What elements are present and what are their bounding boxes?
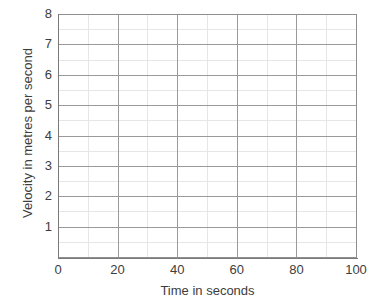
- y-tick-label: 3: [36, 159, 52, 173]
- gridline-h-major: [58, 227, 357, 228]
- gridline-h-minor: [58, 60, 357, 61]
- gridline-h-major: [58, 166, 357, 167]
- gridline-h-major: [58, 136, 357, 137]
- gridlines: [58, 14, 357, 258]
- x-tick-label: 100: [345, 262, 367, 278]
- x-tick-label: 20: [110, 262, 124, 278]
- gridline-h-major: [58, 196, 357, 197]
- y-tick-label: 6: [36, 68, 52, 82]
- y-tick-label: 8: [36, 7, 52, 21]
- x-axis-spine: [58, 258, 358, 259]
- gridline-h-major: [58, 14, 357, 15]
- gridline-h-minor: [58, 211, 357, 212]
- plot-area: [58, 14, 357, 258]
- y-tick-label: 7: [36, 37, 52, 51]
- gridline-h-minor: [58, 120, 357, 121]
- gridline-h-major: [58, 105, 357, 106]
- gridline-h-major: [58, 75, 357, 76]
- x-tick-label: 40: [170, 262, 184, 278]
- gridline-h-minor: [58, 90, 357, 91]
- gridline-h-minor: [58, 29, 357, 30]
- gridline-h-minor: [58, 242, 357, 243]
- velocity-time-chart: 020406080100 12345678 Time in seconds Ve…: [0, 0, 383, 305]
- y-tick-label: 1: [36, 220, 52, 234]
- x-tick-label: 80: [289, 262, 303, 278]
- x-tick-label: 0: [54, 262, 61, 278]
- gridline-h-minor: [58, 181, 357, 182]
- y-axis-spine: [58, 14, 59, 259]
- x-tick-label: 60: [230, 262, 244, 278]
- gridline-h-minor: [58, 151, 357, 152]
- x-axis-title: Time in seconds: [58, 283, 357, 299]
- y-tick-label: 4: [36, 129, 52, 143]
- y-tick-label: 2: [36, 189, 52, 203]
- y-tick-label: 5: [36, 98, 52, 112]
- gridline-h-major: [58, 44, 357, 45]
- y-axis-title: Velocity in metres per second: [20, 11, 36, 255]
